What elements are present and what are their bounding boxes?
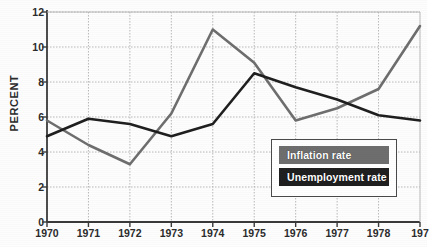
legend-label-unemployment-rate: Unemployment rate [287,171,387,183]
legend-entry-inflation-rate: Inflation rate [279,146,389,164]
legend-entry-unemployment-rate: Unemployment rate [279,168,389,186]
legend-label-inflation-rate: Inflation rate [287,149,351,161]
chart-legend: Inflation rate Unemployment rate [271,139,397,197]
